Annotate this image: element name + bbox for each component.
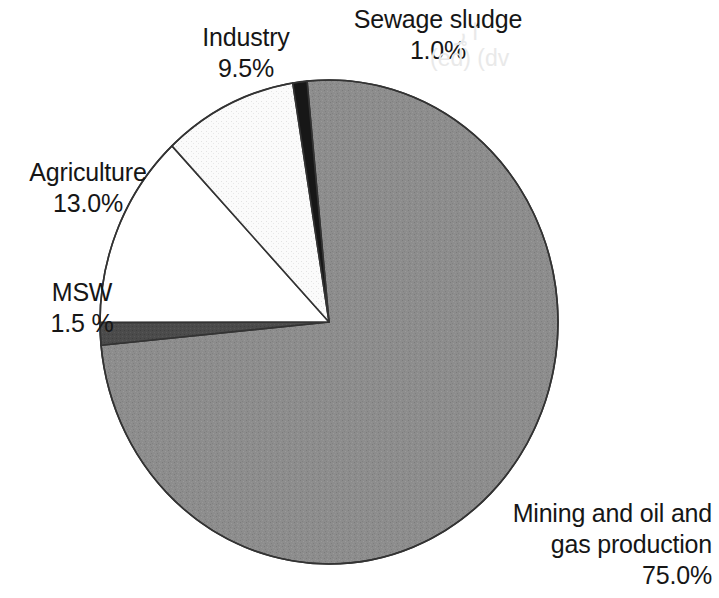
- slice-label-msw: MSW 1.5 %: [6, 277, 158, 339]
- slice-label-agriculture-value: 13.0%: [2, 188, 174, 219]
- slice-label-industry-value: 9.5%: [152, 53, 340, 84]
- slice-label-mining-line1: Mining and oil and: [440, 498, 712, 529]
- slice-label-mining-value: 75.0%: [440, 560, 712, 591]
- slice-label-industry-name: Industry: [152, 22, 340, 53]
- pie-chart: Industry 9.5% Sewage sludge 1.0% Agricul…: [0, 0, 719, 598]
- slice-label-sewage-sludge-value: 1.0%: [322, 35, 554, 66]
- slice-label-sewage-sludge-name: Sewage sludge: [322, 4, 554, 35]
- slice-label-mining-and-oil-and-gas-production: Mining and oil and gas production 75.0%: [440, 498, 712, 591]
- slice-label-msw-name: MSW: [6, 277, 158, 308]
- slice-label-msw-value: 1.5 %: [6, 308, 158, 339]
- slice-label-industry: Industry 9.5%: [152, 22, 340, 84]
- slice-label-agriculture: Agriculture 13.0%: [2, 157, 174, 219]
- slice-label-agriculture-name: Agriculture: [2, 157, 174, 188]
- slice-label-sewage-sludge: Sewage sludge 1.0%: [322, 4, 554, 66]
- slice-label-mining-line2: gas production: [440, 529, 712, 560]
